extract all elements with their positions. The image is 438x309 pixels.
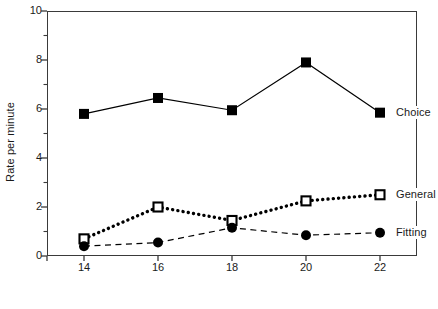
marker-filled-square <box>375 108 385 118</box>
data-point-fitting-18 <box>227 223 237 233</box>
axis-ticks <box>41 11 380 261</box>
marker-open-square <box>154 203 163 212</box>
data-point-choice-22 <box>375 108 385 118</box>
data-point-choice-18 <box>227 105 237 115</box>
series-label-general: General <box>394 188 438 201</box>
marker-filled-circle <box>153 238 163 248</box>
marker-filled-square <box>153 93 163 103</box>
marker-filled-circle <box>79 241 89 251</box>
marker-filled-circle <box>301 230 311 240</box>
marker-filled-square <box>79 109 89 119</box>
data-point-fitting-14 <box>79 241 89 251</box>
marker-open-square <box>302 196 311 205</box>
data-point-fitting-22 <box>375 228 385 238</box>
marker-filled-circle <box>375 228 385 238</box>
data-point-choice-20 <box>301 57 311 67</box>
data-point-general-20 <box>302 196 311 205</box>
data-point-choice-16 <box>153 93 163 103</box>
series-label-fitting: Fitting <box>394 226 429 239</box>
marker-filled-circle <box>227 223 237 233</box>
marker-filled-square <box>301 57 311 67</box>
data-point-general-16 <box>154 203 163 212</box>
series-label-choice: Choice <box>394 106 433 119</box>
data-point-general-22 <box>376 190 385 199</box>
marker-open-square <box>376 190 385 199</box>
marker-filled-square <box>227 105 237 115</box>
data-series <box>79 57 385 251</box>
data-point-fitting-20 <box>301 230 311 240</box>
data-point-choice-14 <box>79 109 89 119</box>
data-point-fitting-16 <box>153 238 163 248</box>
